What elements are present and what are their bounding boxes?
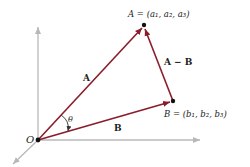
point-a (142, 23, 146, 27)
vector-b (38, 102, 170, 140)
vector-diagram: O A = (a₁, a₂, a₃) B = (b₁, b₂, b₃) A B … (0, 0, 250, 167)
point-b-label: B = (b₁, b₂, b₃) (163, 109, 227, 119)
point-b (171, 99, 175, 103)
vector-b-label: B (114, 123, 122, 133)
diagram-svg: O A = (a₁, a₂, a₃) B = (b₁, b₂, b₃) A B … (0, 0, 250, 167)
axes (13, 27, 200, 164)
vector-a-minus-b-label: A − B (163, 57, 193, 67)
origin-label: O (26, 134, 34, 145)
angle-label: θ (68, 115, 73, 124)
vector-a-label: A (82, 73, 91, 83)
origin-point (36, 138, 41, 143)
vector-a (38, 28, 142, 140)
vectors (38, 28, 173, 140)
point-a-label: A = (a₁, a₂, a₃) (127, 9, 190, 19)
